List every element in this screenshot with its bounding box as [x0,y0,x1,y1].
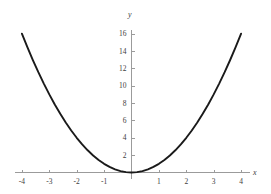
x-tick-label: -1 [101,177,107,186]
x-tick-label: -4 [19,177,25,186]
x-tick-label: 4 [239,177,243,186]
x-tick-label: 1 [157,177,161,186]
chart-canvas: -4-3-2-11234 246810121416 y x [0,0,271,194]
x-tick-label: -3 [46,177,52,186]
y-tick-label: 14 [119,47,127,56]
y-tick-label: 6 [123,116,127,125]
y-tick-label: 10 [119,81,127,90]
y-tick-label: 8 [123,99,127,108]
y-tick-label-group: 246810121416 [119,29,127,160]
y-tick-label: 16 [119,29,127,38]
y-tick-label: 2 [123,151,127,160]
y-axis [132,30,135,179]
y-tick-label: 12 [119,64,127,73]
x-axis-label: x [252,168,257,177]
x-tick-label: -2 [74,177,80,186]
x-tick-label: 3 [212,177,216,186]
x-tick-label: 2 [184,177,188,186]
parabola-chart: -4-3-2-11234 246810121416 y x [0,0,271,194]
y-tick-label: 4 [123,133,127,142]
y-axis-label: y [127,10,132,19]
